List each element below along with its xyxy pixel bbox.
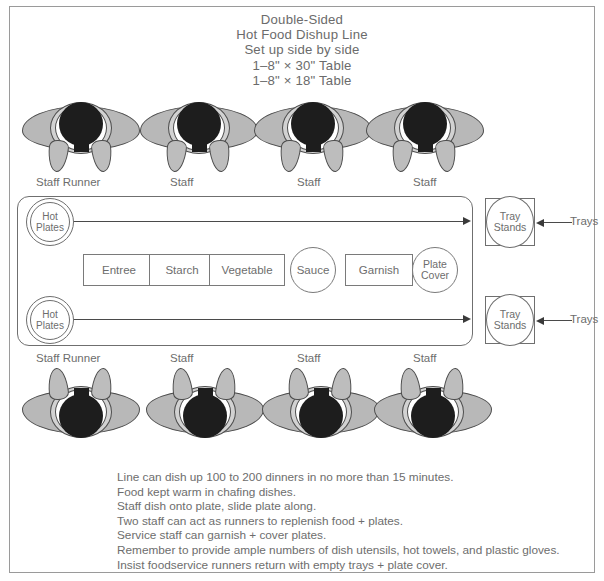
figure-leg-right bbox=[330, 367, 353, 401]
hot-plates-bottom: Hot Plates bbox=[26, 296, 74, 344]
title-block: Double-Sided Hot Food Dishup Line Set up… bbox=[0, 12, 604, 88]
flow-arrow-bottom bbox=[67, 319, 471, 321]
hot-plates-label-line1: Hot bbox=[42, 211, 58, 222]
tray-stand-bottom: Tray Stands bbox=[486, 294, 534, 346]
station-plate-cover: Plate Cover bbox=[412, 247, 458, 293]
tray-stand-label-line2: Stands bbox=[494, 320, 527, 332]
figure-leg-right bbox=[90, 367, 113, 401]
station-label-line2: Cover bbox=[421, 270, 449, 282]
figure-leg-left bbox=[278, 139, 301, 173]
staff-figure-bottom-4 bbox=[374, 368, 492, 440]
figure-leg-left bbox=[46, 139, 69, 173]
figure-collar bbox=[74, 141, 89, 152]
figure-leg-right bbox=[214, 367, 237, 401]
figure-leg-right bbox=[434, 139, 457, 173]
figure-head bbox=[291, 102, 335, 146]
hot-plates-label-line1: Hot bbox=[42, 309, 58, 320]
station-label: Sauce bbox=[297, 264, 330, 276]
station-label: Entree bbox=[102, 264, 136, 276]
station-entree: Entree bbox=[83, 254, 155, 286]
figure-leg-right bbox=[208, 139, 231, 173]
tray-stand-top: Tray Stands bbox=[486, 196, 534, 248]
figure-leg-right bbox=[322, 139, 345, 173]
staff-label-bottom-3: Staff bbox=[297, 352, 320, 364]
title-line-5: 1–8" × 18" Table bbox=[0, 73, 604, 88]
figure-leg-left bbox=[46, 367, 69, 401]
staff-label-bottom-1: Staff Runner bbox=[36, 352, 100, 364]
tray-stand-label-line2: Stands bbox=[494, 222, 527, 234]
figure-collar bbox=[192, 141, 207, 152]
note-line-2: Food kept warm in chafing dishes. bbox=[117, 485, 587, 500]
figure-collar bbox=[314, 388, 329, 399]
staff-figure-bottom-1 bbox=[22, 368, 140, 440]
staff-figure-bottom-3 bbox=[262, 368, 380, 440]
station-label: Vegetable bbox=[221, 264, 272, 276]
figure-leg-left bbox=[398, 367, 421, 401]
figure-head bbox=[177, 102, 221, 146]
figure-head bbox=[59, 394, 103, 438]
station-sauce: Sauce bbox=[290, 247, 336, 293]
figure-leg-left bbox=[286, 367, 309, 401]
note-line-5: Service staff can garnish + cover plates… bbox=[117, 528, 587, 543]
trays-callout-arrow-top bbox=[538, 222, 572, 223]
staff-figure-bottom-2 bbox=[146, 368, 264, 440]
station-vegetable: Vegetable bbox=[209, 254, 285, 286]
figure-leg-right bbox=[442, 367, 465, 401]
notes-block: Line can dish up 100 to 200 dinners in n… bbox=[117, 470, 587, 572]
staff-figure-top-1 bbox=[22, 100, 140, 172]
staff-label-bottom-2: Staff bbox=[170, 352, 193, 364]
station-garnish: Garnish bbox=[345, 254, 413, 286]
figure-collar bbox=[198, 388, 213, 399]
station-label: Garnish bbox=[359, 264, 399, 276]
flow-arrow-top bbox=[67, 221, 471, 223]
note-line-6: Remember to provide ample numbers of dis… bbox=[117, 543, 587, 558]
figure-collar bbox=[306, 141, 321, 152]
figure-head bbox=[183, 394, 227, 438]
note-line-7: Insist foodservice runners return with e… bbox=[117, 558, 587, 573]
trays-callout-arrow-bottom bbox=[538, 320, 572, 321]
figure-head bbox=[59, 102, 103, 146]
note-line-1: Line can dish up 100 to 200 dinners in n… bbox=[117, 470, 587, 485]
staff-label-top-1: Staff Runner bbox=[36, 176, 100, 188]
hot-plates-top: Hot Plates bbox=[26, 198, 74, 246]
staff-figure-top-2 bbox=[140, 100, 258, 172]
staff-label-top-4: Staff bbox=[413, 176, 436, 188]
title-line-2: Hot Food Dishup Line bbox=[0, 27, 604, 42]
figure-leg-left bbox=[390, 139, 413, 173]
staff-label-top-3: Staff bbox=[297, 176, 320, 188]
title-line-3: Set up side by side bbox=[0, 42, 604, 57]
station-starch: Starch bbox=[149, 254, 215, 286]
title-line-1: Double-Sided bbox=[0, 12, 604, 27]
staff-figure-top-3 bbox=[254, 100, 372, 172]
hot-plates-inner: Hot Plates bbox=[30, 300, 70, 340]
station-label: Starch bbox=[165, 264, 198, 276]
diagram-canvas: Double-Sided Hot Food Dishup Line Set up… bbox=[0, 0, 604, 581]
hot-plates-label-line2: Plates bbox=[36, 222, 64, 233]
figure-collar bbox=[74, 388, 89, 399]
title-line-4: 1–8" × 30" Table bbox=[0, 58, 604, 73]
staff-figure-top-4 bbox=[366, 100, 484, 172]
staff-label-top-2: Staff bbox=[170, 176, 193, 188]
note-line-4: Two staff can act as runners to replenis… bbox=[117, 514, 587, 529]
figure-head bbox=[403, 102, 447, 146]
figure-leg-left bbox=[170, 367, 193, 401]
trays-callout-label-top: Trays bbox=[570, 215, 598, 227]
note-line-3: Staff dish onto plate, slide plate along… bbox=[117, 499, 587, 514]
hot-plates-label-line2: Plates bbox=[36, 320, 64, 331]
hot-plates-inner: Hot Plates bbox=[30, 202, 70, 242]
figure-leg-right bbox=[90, 139, 113, 173]
figure-head bbox=[299, 394, 343, 438]
trays-callout-label-bottom: Trays bbox=[570, 313, 598, 325]
staff-label-bottom-4: Staff bbox=[413, 352, 436, 364]
figure-collar bbox=[426, 388, 441, 399]
figure-leg-left bbox=[164, 139, 187, 173]
figure-head bbox=[411, 394, 455, 438]
figure-collar bbox=[418, 141, 433, 152]
